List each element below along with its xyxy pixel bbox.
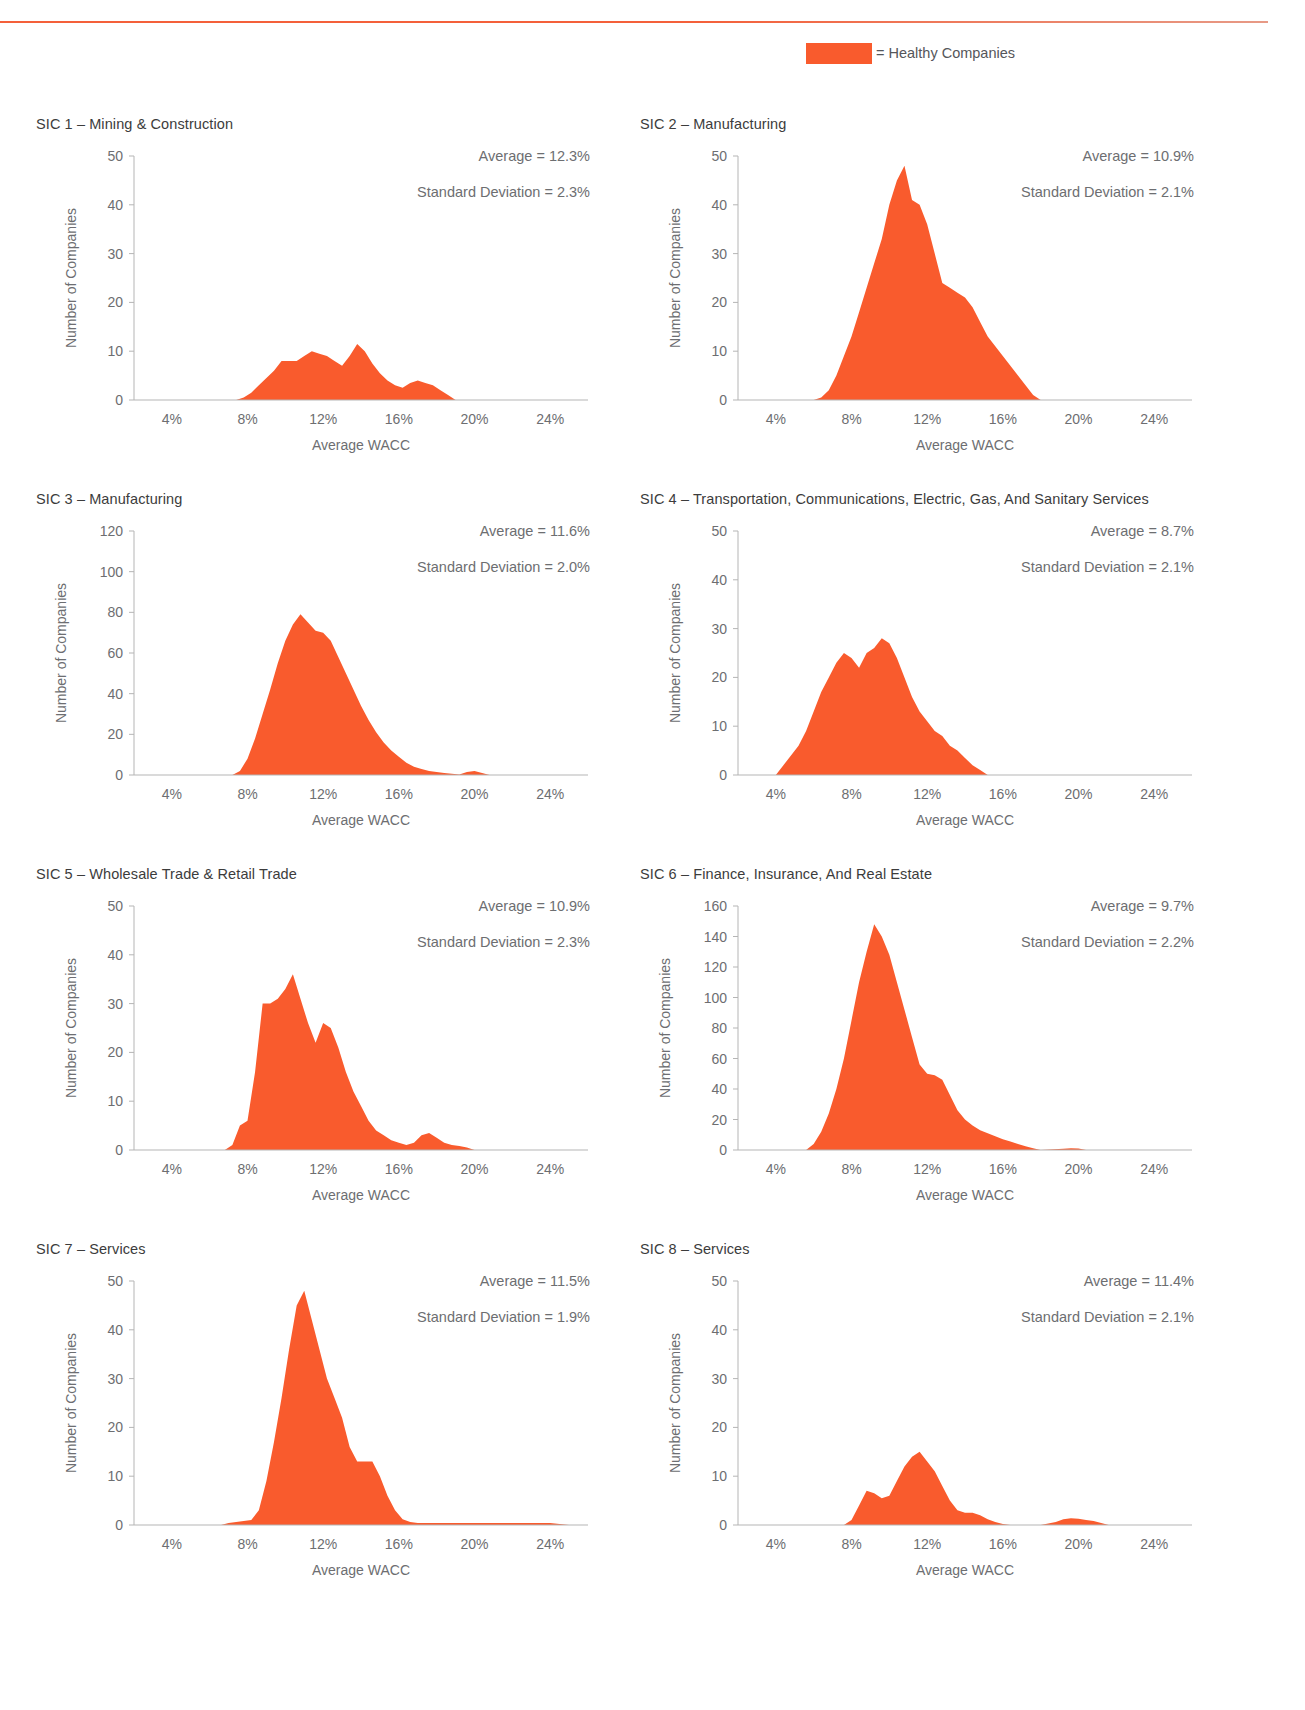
chart-title-sic-7: SIC 7 – Services xyxy=(36,1241,146,1257)
area-series-healthy-companies xyxy=(776,638,988,775)
x-tick-label: 24% xyxy=(1140,786,1168,802)
x-axis-title: Average WACC xyxy=(312,812,410,828)
y-tick-label: 50 xyxy=(711,523,727,539)
x-tick-label: 8% xyxy=(237,786,257,802)
chart-plot-sic-3: 0204060801001204%8%12%16%20%24%Average W… xyxy=(36,517,602,837)
x-axis-title: Average WACC xyxy=(312,437,410,453)
chart-panel-sic-8: SIC 8 – ServicesAverage = 11.4%Standard … xyxy=(640,1225,1206,1600)
x-tick-label: 12% xyxy=(913,786,941,802)
y-tick-label: 30 xyxy=(711,1371,727,1387)
x-tick-label: 4% xyxy=(766,1536,786,1552)
area-series-healthy-companies xyxy=(814,166,1041,400)
chart-panel-sic-6: SIC 6 – Finance, Insurance, And Real Est… xyxy=(640,850,1206,1225)
y-tick-label: 50 xyxy=(107,148,123,164)
x-tick-label: 20% xyxy=(1064,411,1092,427)
chart-panel-sic-2: SIC 2 – ManufacturingAverage = 10.9%Stan… xyxy=(640,100,1206,475)
chart-plot-sic-4: 010203040504%8%12%16%20%24%Average WACCN… xyxy=(640,517,1206,837)
y-tick-label: 0 xyxy=(719,1517,727,1533)
chart-title-sic-6: SIC 6 – Finance, Insurance, And Real Est… xyxy=(640,866,932,882)
y-tick-label: 60 xyxy=(107,645,123,661)
x-tick-label: 20% xyxy=(460,1536,488,1552)
x-tick-label: 8% xyxy=(237,1536,257,1552)
chart-title-sic-4: SIC 4 – Transportation, Communications, … xyxy=(640,491,1149,507)
y-tick-label: 20 xyxy=(107,1419,123,1435)
x-tick-label: 24% xyxy=(536,411,564,427)
y-tick-label: 140 xyxy=(704,929,728,945)
chart-plot-sic-1: 010203040504%8%12%16%20%24%Average WACCN… xyxy=(36,142,602,462)
y-tick-label: 50 xyxy=(107,1273,123,1289)
x-tick-label: 24% xyxy=(536,1161,564,1177)
chart-title-sic-2: SIC 2 – Manufacturing xyxy=(640,116,786,132)
area-series-healthy-companies xyxy=(225,974,475,1150)
x-tick-label: 8% xyxy=(841,1536,861,1552)
y-tick-label: 0 xyxy=(719,392,727,408)
chart-title-sic-5: SIC 5 – Wholesale Trade & Retail Trade xyxy=(36,866,297,882)
x-tick-label: 8% xyxy=(841,1161,861,1177)
x-tick-label: 12% xyxy=(309,786,337,802)
y-tick-label: 40 xyxy=(711,197,727,213)
chart-plot-sic-7: 010203040504%8%12%16%20%24%Average WACCN… xyxy=(36,1267,602,1587)
y-axis-title: Number of Companies xyxy=(63,958,79,1098)
y-tick-label: 10 xyxy=(107,1093,123,1109)
x-tick-label: 4% xyxy=(766,1161,786,1177)
x-tick-label: 4% xyxy=(162,1536,182,1552)
accent-rule xyxy=(0,21,1268,23)
x-tick-label: 16% xyxy=(385,411,413,427)
chart-panel-sic-3: SIC 3 – ManufacturingAverage = 11.6%Stan… xyxy=(36,475,602,850)
x-tick-label: 8% xyxy=(237,1161,257,1177)
x-tick-label: 12% xyxy=(913,1536,941,1552)
chart-title-sic-8: SIC 8 – Services xyxy=(640,1241,750,1257)
chart-plot-sic-5: 010203040504%8%12%16%20%24%Average WACCN… xyxy=(36,892,602,1212)
x-tick-label: 4% xyxy=(766,411,786,427)
x-tick-label: 16% xyxy=(989,1161,1017,1177)
y-tick-label: 10 xyxy=(107,1468,123,1484)
y-tick-label: 40 xyxy=(107,197,123,213)
y-axis-title: Number of Companies xyxy=(667,583,683,723)
chart-grid: SIC 1 – Mining & ConstructionAverage = 1… xyxy=(0,100,1305,1600)
y-tick-label: 50 xyxy=(107,898,123,914)
legend-swatch-healthy-companies xyxy=(806,43,872,64)
x-tick-label: 24% xyxy=(536,786,564,802)
chart-panel-sic-4: SIC 4 – Transportation, Communications, … xyxy=(640,475,1206,850)
cropped-heading-strip xyxy=(0,0,1305,22)
y-axis-title: Number of Companies xyxy=(53,583,69,723)
y-tick-label: 10 xyxy=(107,343,123,359)
y-tick-label: 20 xyxy=(711,294,727,310)
area-series-healthy-companies xyxy=(221,1291,569,1525)
x-axis-title: Average WACC xyxy=(916,1562,1014,1578)
y-tick-label: 0 xyxy=(115,1142,123,1158)
y-tick-label: 20 xyxy=(107,1044,123,1060)
y-axis-title: Number of Companies xyxy=(63,208,79,348)
chart-plot-sic-8: 010203040504%8%12%16%20%24%Average WACCN… xyxy=(640,1267,1206,1587)
y-tick-label: 0 xyxy=(719,1142,727,1158)
chart-plot-sic-2: 010203040504%8%12%16%20%24%Average WACCN… xyxy=(640,142,1206,462)
x-tick-label: 16% xyxy=(989,411,1017,427)
x-tick-label: 4% xyxy=(162,411,182,427)
x-tick-label: 4% xyxy=(766,786,786,802)
y-tick-label: 40 xyxy=(107,686,123,702)
x-tick-label: 8% xyxy=(237,411,257,427)
x-tick-label: 24% xyxy=(1140,411,1168,427)
x-tick-label: 20% xyxy=(460,1161,488,1177)
x-axis-title: Average WACC xyxy=(916,1187,1014,1203)
y-axis-title: Number of Companies xyxy=(657,958,673,1098)
x-tick-label: 20% xyxy=(1064,1536,1092,1552)
chart-panel-sic-5: SIC 5 – Wholesale Trade & Retail TradeAv… xyxy=(36,850,602,1225)
y-tick-label: 100 xyxy=(704,990,728,1006)
area-series-healthy-companies xyxy=(844,1452,1109,1525)
y-axis-title: Number of Companies xyxy=(667,1333,683,1473)
y-tick-label: 30 xyxy=(107,246,123,262)
y-tick-label: 80 xyxy=(711,1020,727,1036)
y-tick-label: 20 xyxy=(107,294,123,310)
x-tick-label: 4% xyxy=(162,1161,182,1177)
y-tick-label: 50 xyxy=(711,1273,727,1289)
x-tick-label: 8% xyxy=(841,786,861,802)
x-tick-label: 16% xyxy=(385,786,413,802)
y-tick-label: 80 xyxy=(107,604,123,620)
y-tick-label: 60 xyxy=(711,1051,727,1067)
y-tick-label: 10 xyxy=(711,1468,727,1484)
y-tick-label: 10 xyxy=(711,343,727,359)
x-tick-label: 12% xyxy=(913,1161,941,1177)
y-tick-label: 100 xyxy=(100,564,124,580)
y-tick-label: 160 xyxy=(704,898,728,914)
